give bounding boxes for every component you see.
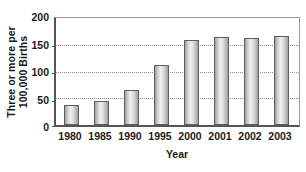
plot-area	[54, 17, 300, 127]
bar-chart: Three or more per 100,000 Births 200 150…	[0, 0, 306, 172]
bar-2002[interactable]	[244, 38, 259, 125]
bar-1980[interactable]	[64, 105, 79, 125]
x-tick-label-1995: 1995	[143, 130, 177, 142]
y-tick-mark	[52, 126, 56, 127]
x-tick-label-2002: 2002	[233, 130, 267, 142]
y-tick-label: 150	[25, 40, 49, 50]
bar-2000[interactable]	[184, 40, 199, 125]
y-tick-label: 0	[25, 122, 49, 132]
bars-layer	[56, 18, 299, 125]
x-tick-label-1990: 1990	[113, 130, 147, 142]
y-axis-tick-labels: 200 150 100 50 0	[20, 0, 49, 172]
x-axis-title: Year	[54, 148, 300, 160]
bar-2001[interactable]	[214, 37, 229, 125]
bar-1990[interactable]	[124, 90, 139, 125]
y-tick-label: 200	[25, 12, 49, 22]
x-tick-label-1980: 1980	[53, 130, 87, 142]
bar-1985[interactable]	[94, 101, 109, 125]
x-tick-label-2003: 2003	[263, 130, 297, 142]
y-tick-label: 50	[25, 95, 49, 105]
x-tick-label-1985: 1985	[83, 130, 117, 142]
bar-2003[interactable]	[274, 36, 289, 125]
x-axis-tick-labels: 1980 1985 1990 1995 2000 2001 2002 2003	[54, 130, 300, 144]
y-tick-label: 100	[25, 67, 49, 77]
x-tick-label-2001: 2001	[203, 130, 237, 142]
bar-1995[interactable]	[154, 65, 169, 125]
y-axis-title-line-1: Three or more per	[5, 26, 17, 118]
x-tick-label-2000: 2000	[173, 130, 207, 142]
